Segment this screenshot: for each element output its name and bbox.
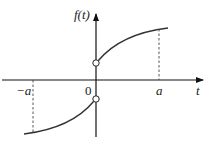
x-axis-label: t xyxy=(196,83,200,98)
open-circle-lower xyxy=(93,96,99,102)
open-circle-upper xyxy=(93,60,99,66)
y-axis-label: f(t) xyxy=(74,7,90,22)
lower-curve xyxy=(24,101,94,134)
tick-label-zero: 0 xyxy=(85,83,92,98)
tick-label-pos-a: a xyxy=(156,83,163,98)
upper-curve xyxy=(98,28,168,61)
function-diagram: f(t) t −a 0 a xyxy=(0,0,210,149)
tick-label-neg-a: −a xyxy=(16,83,32,98)
